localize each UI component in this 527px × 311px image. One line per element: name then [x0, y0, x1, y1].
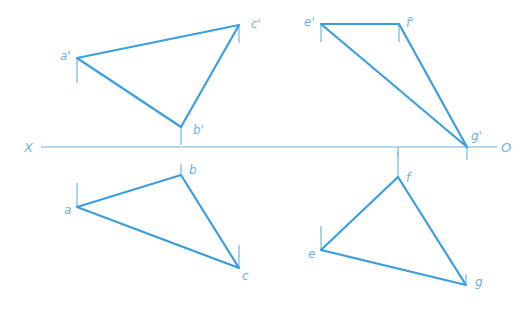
triangle-efg-top-view: e f g	[308, 152, 483, 289]
triangle-edges-efg-prime	[321, 24, 467, 147]
vertex-label-c-prime: c'	[251, 17, 261, 31]
vertex-label-a-prime: a'	[60, 49, 71, 63]
triangle-abc-top-view: a b c	[64, 163, 249, 283]
vertex-label-a: a	[64, 203, 71, 217]
vertex-label-e-prime: e'	[304, 15, 315, 29]
triangle-edges-abc	[77, 175, 239, 268]
vertex-label-g: g	[475, 275, 483, 289]
triangle-edges-efg	[321, 177, 466, 285]
axis-label-o: O	[501, 140, 511, 155]
axis-label-x: X	[23, 140, 34, 155]
vertex-label-g-prime: g'	[471, 129, 482, 143]
vertex-label-f: f	[406, 171, 412, 185]
triangle-edges-abc-prime	[77, 25, 239, 127]
orthographic-projection-diagram: X O a' b' c' e' f' g'	[0, 0, 527, 311]
triangle-efg-front-view: e' f' g'	[304, 15, 482, 160]
vertex-label-b-prime: b'	[193, 123, 204, 137]
vertex-label-e: e	[308, 247, 315, 261]
triangle-abc-front-view: a' b' c'	[60, 17, 261, 145]
vertex-label-f-prime: f'	[406, 16, 414, 30]
vertex-label-c: c	[242, 269, 249, 283]
diagram-canvas: X O a' b' c' e' f' g'	[0, 0, 527, 311]
vertex-label-b: b	[189, 163, 197, 177]
